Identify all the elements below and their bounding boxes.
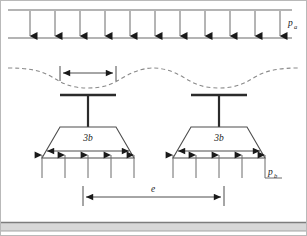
surcharge-pressure-subscript: a bbox=[294, 23, 297, 30]
figure-border bbox=[1, 1, 307, 236]
ground-band-group bbox=[1, 222, 306, 231]
bearing-pressure-label: p bbox=[267, 167, 273, 177]
left-footing-width-label: 3b bbox=[82, 133, 93, 143]
right-footing-width-label: 3b bbox=[213, 133, 224, 143]
diagram-canvas: p a 3b bbox=[0, 0, 307, 236]
surcharge-pressure-label: p bbox=[287, 18, 293, 28]
spacing-label: e bbox=[151, 184, 155, 194]
foundation-settlement-diagram: p a 3b bbox=[0, 0, 307, 236]
ground-band-fill bbox=[1, 222, 306, 231]
